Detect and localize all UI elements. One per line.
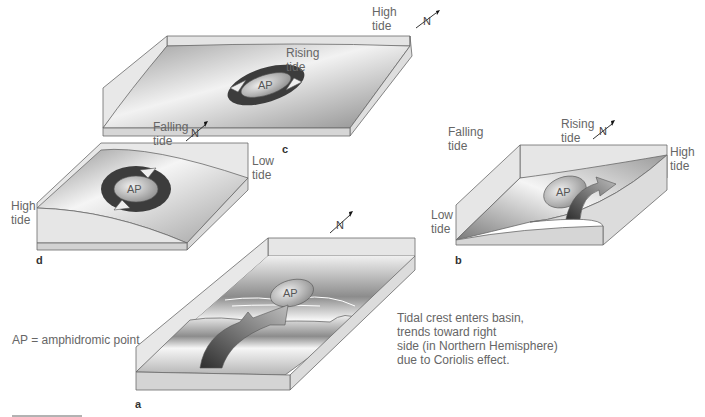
panel-d-label: d [36, 254, 43, 266]
panel-b-left-label: Low tide [431, 208, 453, 236]
panel-d-basin: AP [37, 143, 248, 250]
panel-a-basin: AP [136, 238, 415, 390]
amphidromic-point-d: AP [127, 183, 142, 195]
svg-text:N: N [423, 15, 431, 27]
panel-d-right-label: Low tide [252, 154, 274, 182]
panel-c-basin: AP [103, 36, 412, 136]
north-arrow-b-icon: N [593, 120, 615, 139]
panel-c-top-label: High tide [372, 5, 397, 33]
panel-a-caption: Tidal crest enters basin, trends toward … [397, 311, 558, 367]
svg-text:N: N [191, 127, 199, 139]
amphidromic-point-a: AP [283, 287, 298, 299]
tidal-diagram: AP AP AP AP [0, 0, 705, 417]
amphidromic-point-b: AP [556, 186, 571, 198]
panel-b-label: b [455, 254, 462, 266]
panel-b-right-label: High tide [670, 145, 695, 173]
panel-d-top-label: Falling tide [153, 120, 188, 148]
legend-ap: AP = amphidromic point [12, 333, 140, 347]
svg-text:N: N [336, 219, 344, 231]
panel-d-left-label: High tide [11, 199, 36, 227]
panel-b-top-label: Rising tide [561, 117, 594, 145]
north-arrow-c-icon: N [416, 10, 440, 28]
panel-c-right-label: Falling tide [448, 125, 483, 153]
panel-c-label: c [282, 143, 288, 155]
amphidromic-point-c: AP [258, 79, 273, 91]
svg-text:N: N [599, 125, 607, 137]
panel-b-basin: AP [456, 145, 667, 245]
panel-a-label: a [135, 398, 141, 410]
panel-c-left-label: Rising tide [286, 46, 319, 74]
north-arrow-a-icon: N [330, 211, 353, 233]
